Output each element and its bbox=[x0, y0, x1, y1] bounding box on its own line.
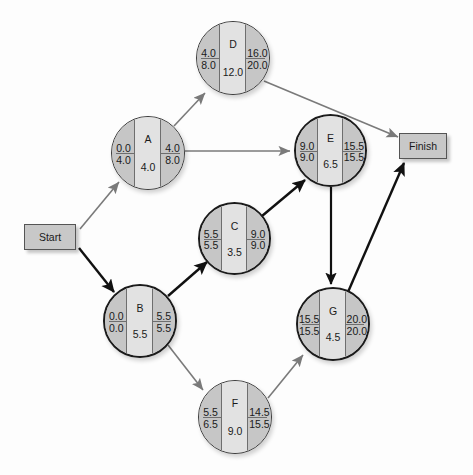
node-b-late-finish: 5.5 bbox=[153, 323, 175, 334]
node-f-name: F bbox=[222, 398, 248, 409]
activity-node-e[interactable]: E 9.0 9.0 15.5 15.5 6.5 bbox=[294, 114, 367, 187]
node-g-duration: 4.5 bbox=[320, 332, 345, 343]
node-c-early-start: 5.5 bbox=[200, 229, 222, 240]
node-e-center-col bbox=[318, 116, 343, 185]
node-e-early-start: 9.0 bbox=[296, 141, 318, 152]
edge-f-g bbox=[268, 355, 303, 398]
node-a-late-finish: 8.0 bbox=[161, 155, 184, 166]
node-f-duration: 9.0 bbox=[222, 426, 248, 437]
node-g-center-col bbox=[320, 289, 345, 359]
node-a-early-finish: 4.0 bbox=[161, 143, 184, 154]
node-g-late-finish: 20.0 bbox=[346, 326, 368, 337]
node-d-center-col bbox=[220, 22, 246, 94]
node-b-duration: 5.5 bbox=[127, 329, 152, 340]
activity-node-d[interactable]: D 4.0 8.0 16.0 20.0 12.0 bbox=[196, 21, 270, 95]
finish-node[interactable]: Finish bbox=[399, 133, 447, 159]
node-a-late-start: 4.0 bbox=[112, 155, 135, 166]
node-d-early-finish: 16.0 bbox=[246, 48, 269, 59]
activity-node-f[interactable]: F 5.5 6.5 14.5 15.5 9.0 bbox=[198, 380, 272, 454]
activity-node-a[interactable]: A 0.0 4.0 4.0 8.0 4.0 bbox=[111, 116, 185, 190]
node-d-late-start: 8.0 bbox=[197, 60, 220, 71]
node-a-early-start: 0.0 bbox=[112, 143, 135, 154]
node-b-early-finish: 5.5 bbox=[153, 311, 175, 322]
node-c-name: C bbox=[222, 221, 247, 232]
node-c-center-col bbox=[222, 204, 247, 273]
node-g-early-finish: 20.0 bbox=[346, 314, 368, 325]
activity-node-g[interactable]: G 15.5 15.5 20.0 20.0 4.5 bbox=[296, 287, 370, 361]
node-f-center-col bbox=[222, 381, 248, 453]
start-node-label: Start bbox=[39, 231, 61, 243]
node-d-duration: 12.0 bbox=[220, 67, 246, 78]
node-e-early-finish: 15.5 bbox=[343, 141, 365, 152]
finish-node-label: Finish bbox=[409, 140, 437, 152]
node-g-early-start: 15.5 bbox=[298, 314, 320, 325]
node-c-late-start: 5.5 bbox=[200, 240, 222, 251]
node-b-name: B bbox=[127, 303, 152, 314]
node-f-late-start: 6.5 bbox=[199, 419, 222, 430]
node-c-duration: 3.5 bbox=[222, 247, 247, 258]
node-e-late-start: 9.0 bbox=[296, 152, 318, 163]
node-f-early-start: 5.5 bbox=[199, 407, 222, 418]
node-a-duration: 4.0 bbox=[135, 162, 161, 173]
node-d-late-finish: 20.0 bbox=[246, 60, 269, 71]
node-a-name: A bbox=[135, 134, 161, 145]
node-b-center-col bbox=[127, 286, 152, 356]
edge-start-a bbox=[80, 182, 119, 229]
node-d-name: D bbox=[220, 39, 246, 50]
node-g-late-start: 15.5 bbox=[298, 326, 320, 337]
network-diagram-canvas: Start Finish D 4.0 8.0 16.0 20.0 12.0 A … bbox=[0, 0, 473, 475]
start-node[interactable]: Start bbox=[24, 224, 76, 250]
node-e-duration: 6.5 bbox=[318, 159, 343, 170]
node-g-name: G bbox=[320, 306, 345, 317]
node-b-late-start: 0.0 bbox=[105, 323, 127, 334]
node-f-early-finish: 14.5 bbox=[248, 407, 271, 418]
node-b-early-start: 0.0 bbox=[105, 311, 127, 322]
node-e-late-finish: 15.5 bbox=[343, 152, 365, 163]
activity-node-c[interactable]: C 5.5 5.5 9.0 9.0 3.5 bbox=[198, 202, 271, 275]
node-d-early-start: 4.0 bbox=[197, 48, 220, 59]
node-c-late-finish: 9.0 bbox=[247, 240, 269, 251]
node-a-center-col bbox=[135, 117, 161, 189]
activity-node-b[interactable]: B 0.0 0.0 5.5 5.5 5.5 bbox=[103, 284, 177, 358]
node-e-name: E bbox=[318, 133, 343, 144]
node-f-late-finish: 15.5 bbox=[248, 419, 271, 430]
node-c-early-finish: 9.0 bbox=[247, 229, 269, 240]
